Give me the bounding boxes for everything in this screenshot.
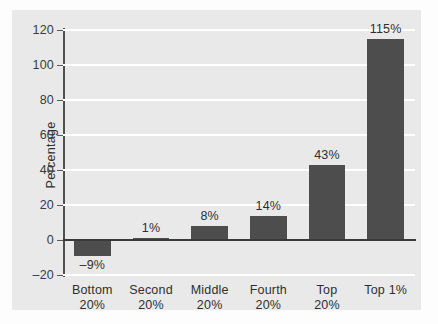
bar-value-label: 43% bbox=[314, 148, 340, 162]
y-axis-tick-label: 120 bbox=[33, 23, 54, 37]
y-axis-tick-label: 80 bbox=[40, 93, 54, 107]
gridline bbox=[63, 29, 415, 31]
x-axis-category-label: Top 1% bbox=[364, 283, 407, 298]
x-axis-category-label: Top 20% bbox=[314, 283, 340, 313]
x-axis-category-label: Middle 20% bbox=[191, 283, 229, 313]
x-axis-category-label: Second 20% bbox=[129, 283, 173, 313]
bar-value-label: 14% bbox=[256, 199, 282, 213]
chart-figure: Percentage 120100806040200–20 –9%1%8%14%… bbox=[0, 0, 438, 324]
zero-baseline bbox=[63, 239, 416, 241]
bar[interactable] bbox=[367, 39, 403, 240]
y-axis-tick-mark bbox=[57, 275, 63, 276]
y-axis-tick-label: 20 bbox=[40, 198, 54, 212]
bar-value-label: 115% bbox=[370, 22, 402, 36]
bar[interactable] bbox=[250, 216, 286, 241]
y-axis-tick-mark bbox=[57, 205, 63, 206]
y-axis-tick-label: 100 bbox=[33, 58, 54, 72]
gridline bbox=[63, 169, 415, 171]
y-axis-tick-mark bbox=[57, 170, 63, 171]
gridline bbox=[63, 64, 415, 66]
y-axis-tick-mark bbox=[57, 30, 63, 31]
y-axis-tick-label: 60 bbox=[40, 128, 54, 142]
bar-value-label: 8% bbox=[200, 209, 218, 223]
y-axis-tick-label: 0 bbox=[47, 233, 54, 247]
bar[interactable] bbox=[191, 226, 227, 240]
gridline bbox=[63, 99, 415, 101]
y-axis-tick-mark bbox=[57, 135, 63, 136]
bar[interactable] bbox=[309, 165, 345, 240]
bar[interactable] bbox=[74, 240, 110, 256]
gridline bbox=[63, 274, 415, 276]
x-axis-category-label: Fourth 20% bbox=[250, 283, 287, 313]
y-axis-tick-mark bbox=[57, 65, 63, 66]
bar-value-label: –9% bbox=[80, 258, 106, 272]
gridline bbox=[63, 204, 415, 206]
x-axis-category-label: Bottom 20% bbox=[72, 283, 113, 313]
bar-value-label: 1% bbox=[142, 221, 160, 235]
gridline bbox=[63, 134, 415, 136]
y-axis-tick-label: 40 bbox=[40, 163, 54, 177]
y-axis-tick-mark bbox=[57, 100, 63, 101]
y-axis-tick-label: –20 bbox=[33, 268, 54, 282]
